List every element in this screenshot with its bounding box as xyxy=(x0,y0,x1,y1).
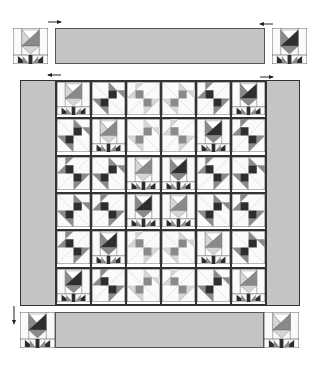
tulip-block xyxy=(126,193,161,230)
top-left-tulip-block xyxy=(13,28,48,64)
bottom-right-tulip-block xyxy=(264,312,299,348)
tulip-block xyxy=(91,118,126,155)
star-block xyxy=(91,193,126,230)
star-block xyxy=(91,156,126,193)
star-block xyxy=(231,156,266,193)
block-grid xyxy=(56,81,266,305)
top-border-strip xyxy=(55,28,265,64)
star-block xyxy=(91,81,126,118)
tulip-block xyxy=(196,230,231,267)
star-block xyxy=(231,230,266,267)
star-block xyxy=(161,268,196,305)
star-block xyxy=(231,193,266,230)
tulip-block xyxy=(231,81,266,118)
tulip-block xyxy=(196,118,231,155)
star-block xyxy=(196,81,231,118)
tulip-block xyxy=(161,156,196,193)
star-block xyxy=(161,118,196,155)
top-right-tulip-block xyxy=(272,28,307,64)
star-block xyxy=(231,118,266,155)
tulip-block xyxy=(126,156,161,193)
star-block xyxy=(56,230,91,267)
right-border-strip xyxy=(266,81,299,305)
star-block xyxy=(126,230,161,267)
star-block xyxy=(126,81,161,118)
arrow-left-icon xyxy=(46,72,62,78)
star-block xyxy=(126,268,161,305)
star-block xyxy=(126,118,161,155)
star-block xyxy=(91,268,126,305)
bottom-left-tulip-block xyxy=(20,312,55,348)
left-border-strip xyxy=(21,81,56,305)
star-block xyxy=(161,81,196,118)
arrow-right-icon xyxy=(47,19,63,25)
arrow-down-icon xyxy=(11,306,17,326)
bottom-border-strip xyxy=(55,312,264,348)
tulip-block xyxy=(56,81,91,118)
star-block xyxy=(161,230,196,267)
star-block xyxy=(56,156,91,193)
arrow-left-icon xyxy=(258,21,274,27)
star-block xyxy=(196,193,231,230)
tulip-block xyxy=(231,268,266,305)
star-block xyxy=(196,268,231,305)
tulip-block xyxy=(56,268,91,305)
tulip-block xyxy=(91,230,126,267)
tulip-block xyxy=(161,193,196,230)
quilt-center-assembly xyxy=(20,80,300,306)
star-block xyxy=(56,118,91,155)
star-block xyxy=(196,156,231,193)
star-block xyxy=(56,193,91,230)
